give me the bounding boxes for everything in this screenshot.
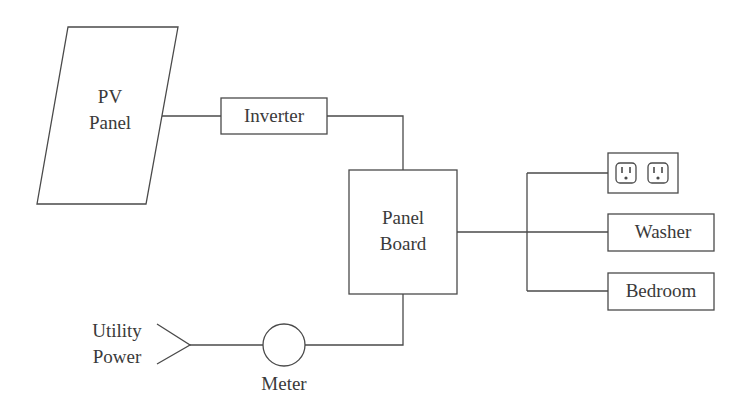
duplex-outlet-icon [648, 163, 668, 183]
utility-power-label-line1: Utility [84, 318, 150, 344]
edge-meter-to-panel-board [305, 294, 403, 345]
washer-label: Washer [608, 219, 718, 245]
panel-board-label: Panel Board [349, 205, 457, 257]
utility-power-label: Utility Power [84, 318, 150, 370]
pv-panel-label: PV Panel [75, 84, 145, 136]
bedroom-label: Bedroom [608, 278, 714, 304]
utility-input-arrow-icon [157, 324, 190, 364]
inverter-label: Inverter [221, 103, 327, 129]
meter-label: Meter [250, 371, 318, 397]
utility-power-label-line2: Power [84, 344, 150, 370]
pv-panel-label-line1: PV [75, 84, 145, 110]
pv-panel-label-line2: Panel [75, 110, 145, 136]
duplex-outlet-icon [616, 163, 636, 183]
edge-inverter-to-panel-board [327, 116, 403, 170]
meter-circle [263, 324, 305, 366]
panel-board-label-line1: Panel [349, 205, 457, 231]
panel-board-label-line2: Board [349, 231, 457, 257]
